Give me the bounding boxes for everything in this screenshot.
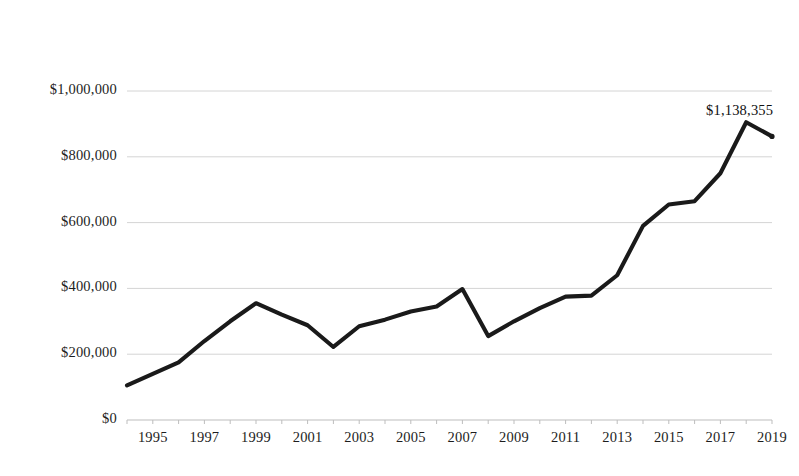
y-axis-label: $1,000,000: [50, 81, 117, 98]
data-line: [127, 122, 772, 385]
y-axis-label: $200,000: [61, 344, 117, 361]
line-chart: $1,000,000$800,000$600,000$400,000$200,0…: [0, 0, 799, 476]
x-axis-ticks: [127, 420, 772, 424]
y-axis-label: $600,000: [61, 213, 117, 230]
end-point-value-label: $1,138,355: [706, 102, 773, 119]
gridlines: [127, 91, 772, 420]
end-point-marker: [769, 134, 774, 139]
y-axis-label: $400,000: [61, 278, 117, 295]
plot-area: [0, 0, 799, 476]
y-axis-label: $0: [102, 410, 117, 427]
x-axis-label: 2019: [742, 429, 799, 446]
y-axis-label: $800,000: [61, 147, 117, 164]
